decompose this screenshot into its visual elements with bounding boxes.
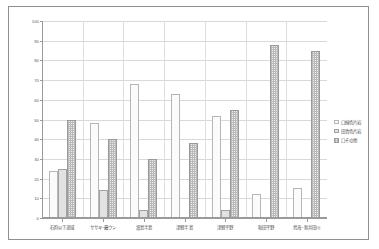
y-tick-label: 40 bbox=[34, 137, 39, 142]
y-tick-label: 20 bbox=[34, 176, 39, 181]
legend-item[interactable]: 口緑色片岩 bbox=[334, 119, 361, 125]
y-tick-label: 70 bbox=[34, 78, 39, 83]
x-axis-label: ササキ~最ウン bbox=[90, 224, 117, 230]
y-tick-label: 10 bbox=[34, 196, 39, 201]
legend-item[interactable]: 田青色片岩 bbox=[334, 128, 361, 134]
x-tick-mark bbox=[62, 219, 63, 222]
x-tick-mark bbox=[185, 219, 186, 222]
legend-swatch-icon bbox=[334, 120, 339, 125]
x-axis-line bbox=[42, 217, 327, 218]
bar-group bbox=[205, 21, 246, 218]
y-axis-line bbox=[42, 21, 43, 218]
legend-label: 口その他 bbox=[341, 137, 357, 143]
x-tick-mark bbox=[103, 219, 104, 222]
legend-label: 田青色片岩 bbox=[341, 128, 361, 134]
bar[interactable] bbox=[230, 110, 239, 218]
bar[interactable] bbox=[171, 94, 180, 218]
legend-swatch-icon bbox=[334, 138, 339, 143]
x-tick-mark bbox=[144, 219, 145, 222]
y-tick-label: 90 bbox=[34, 38, 39, 43]
bar[interactable] bbox=[67, 120, 76, 219]
bar[interactable] bbox=[148, 159, 157, 218]
bar[interactable] bbox=[212, 116, 221, 218]
x-axis-label: 津軽半島 bbox=[176, 224, 192, 230]
legend-swatch-icon bbox=[334, 129, 339, 134]
x-axis-labels: 石狩以下流域ササキ~最ウン渡島半島津軽半島津軽平野秋田平野鳥海~新井田川 bbox=[42, 222, 327, 236]
x-axis-label: 石狩以下流域 bbox=[50, 224, 74, 230]
chart-legend: 口緑色片岩田青色片岩口その他 bbox=[334, 119, 361, 143]
legend-label: 口緑色片岩 bbox=[341, 119, 361, 125]
x-tick-mark bbox=[266, 219, 267, 222]
y-tick-label: 50 bbox=[34, 117, 39, 122]
bar-group bbox=[164, 21, 205, 218]
bar-group bbox=[246, 21, 287, 218]
bar[interactable] bbox=[189, 143, 198, 218]
x-axis-label: 渡島半島 bbox=[136, 224, 152, 230]
bar-group bbox=[123, 21, 164, 218]
bar-group bbox=[42, 21, 83, 218]
bar[interactable] bbox=[311, 51, 320, 218]
bar[interactable] bbox=[252, 194, 261, 218]
bar[interactable] bbox=[270, 45, 279, 218]
y-tick-label: 0 bbox=[37, 216, 39, 221]
chart-frame: 0102030405060708090100 石狩以下流域ササキ~最ウン渡島半島… bbox=[8, 6, 369, 240]
bar-group bbox=[286, 21, 327, 218]
plot-area: 0102030405060708090100 bbox=[42, 21, 327, 218]
y-tick-mark bbox=[40, 218, 42, 219]
x-tick-mark bbox=[225, 219, 226, 222]
bar-group bbox=[83, 21, 124, 218]
bar[interactable] bbox=[293, 188, 302, 218]
x-axis-label: 鳥海~新井田川 bbox=[293, 224, 320, 230]
bar[interactable] bbox=[58, 169, 67, 218]
x-tick-mark bbox=[307, 219, 308, 222]
bar[interactable] bbox=[90, 123, 99, 218]
bar[interactable] bbox=[130, 84, 139, 218]
y-tick-label: 100 bbox=[32, 19, 39, 24]
x-axis-label: 秋田平野 bbox=[258, 224, 274, 230]
bar[interactable] bbox=[49, 171, 58, 218]
bar[interactable] bbox=[99, 190, 108, 218]
y-tick-label: 30 bbox=[34, 156, 39, 161]
legend-item[interactable]: 口その他 bbox=[334, 137, 361, 143]
plot-inner: 0102030405060708090100 bbox=[42, 21, 327, 218]
y-tick-label: 80 bbox=[34, 58, 39, 63]
bar[interactable] bbox=[108, 139, 117, 218]
y-tick-label: 60 bbox=[34, 97, 39, 102]
x-axis-label: 津軽平野 bbox=[217, 224, 233, 230]
